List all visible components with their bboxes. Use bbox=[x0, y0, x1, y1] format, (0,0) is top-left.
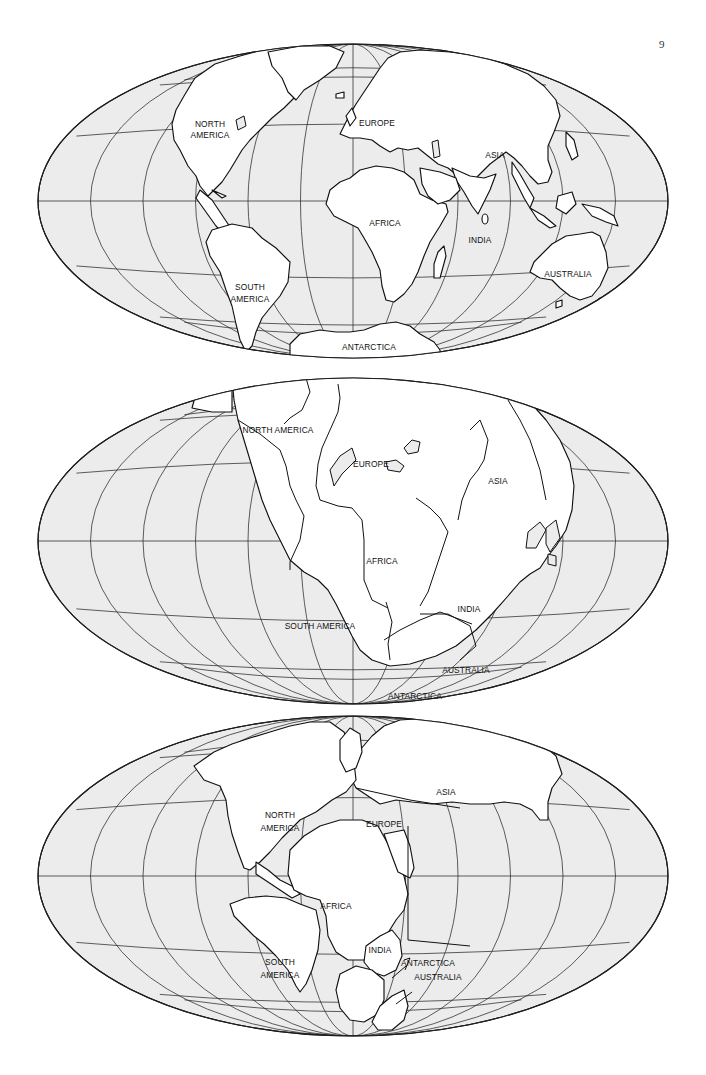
label-africa: AFRICA bbox=[320, 901, 352, 911]
continental-drift-figure: NORTH AMERICA SOUTH AMERICA EUROPE AFRIC… bbox=[0, 0, 706, 1075]
tethys-inlet-3 bbox=[548, 554, 556, 566]
label-australia: AUSTRALIA bbox=[544, 269, 592, 279]
label-australia: AUSTRALIA bbox=[442, 665, 490, 675]
label-south-america: SOUTH AMERICA bbox=[285, 621, 356, 631]
caspian-sea bbox=[432, 140, 440, 158]
label-antarctica: ANTARCTICA bbox=[388, 691, 442, 701]
label-south-america-line1: SOUTH bbox=[265, 957, 295, 967]
landmass-tasmania bbox=[556, 300, 562, 308]
label-africa: AFRICA bbox=[366, 556, 398, 566]
label-australia: AUSTRALIA bbox=[414, 972, 462, 982]
label-asia: ASIA bbox=[485, 150, 505, 160]
map-intermediate: NORTH AMERICA EUROPE ASIA AFRICA SOUTH A… bbox=[36, 716, 670, 1048]
label-north-america: NORTH AMERICA bbox=[243, 425, 314, 435]
label-europe: EUROPE bbox=[366, 819, 402, 829]
label-antarctica: ANTARCTICA bbox=[401, 958, 455, 968]
landmass-sri-lanka bbox=[482, 214, 488, 224]
label-south-america-line2: AMERICA bbox=[261, 970, 300, 980]
label-africa: AFRICA bbox=[369, 218, 401, 228]
map-present-day: NORTH AMERICA SOUTH AMERICA EUROPE AFRIC… bbox=[36, 44, 670, 370]
label-india: INDIA bbox=[369, 945, 392, 955]
label-north-america-line2: AMERICA bbox=[191, 130, 230, 140]
label-north-america-line1: NORTH bbox=[265, 810, 295, 820]
label-antarctica: ANTARCTICA bbox=[342, 342, 396, 352]
label-india: INDIA bbox=[458, 604, 481, 614]
label-north-america-line2: AMERICA bbox=[261, 823, 300, 833]
label-europe: EUROPE bbox=[359, 118, 395, 128]
map-pangaea: NORTH AMERICA EUROPE ASIA AFRICA SOUTH A… bbox=[36, 374, 670, 704]
label-europe: EUROPE bbox=[353, 459, 389, 469]
label-north-america-line1: NORTH bbox=[195, 119, 225, 129]
label-south-america-line2: AMERICA bbox=[231, 294, 270, 304]
label-asia: ASIA bbox=[488, 476, 508, 486]
label-south-america-line1: SOUTH bbox=[235, 282, 265, 292]
label-india: INDIA bbox=[469, 235, 492, 245]
label-asia: ASIA bbox=[436, 787, 456, 797]
